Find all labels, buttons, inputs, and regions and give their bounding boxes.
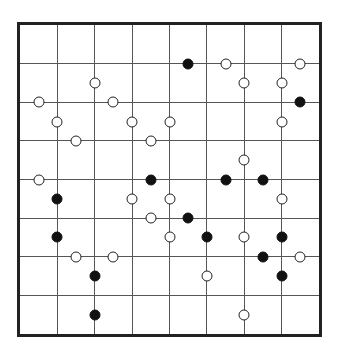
white-pearl-icon[interactable] xyxy=(164,193,175,204)
grid-line-horizontal xyxy=(20,140,319,141)
white-pearl-icon[interactable] xyxy=(127,193,138,204)
white-pearl-icon[interactable] xyxy=(164,116,175,127)
white-pearl-icon[interactable] xyxy=(71,135,82,146)
white-pearl-icon[interactable] xyxy=(201,271,212,282)
white-pearl-icon[interactable] xyxy=(276,193,287,204)
black-pearl-icon[interactable] xyxy=(276,271,287,282)
white-pearl-icon[interactable] xyxy=(276,77,287,88)
black-pearl-icon[interactable] xyxy=(276,232,287,243)
white-pearl-icon[interactable] xyxy=(33,97,44,108)
black-pearl-icon[interactable] xyxy=(89,309,100,320)
black-pearl-icon[interactable] xyxy=(257,174,268,185)
black-pearl-icon[interactable] xyxy=(295,97,306,108)
white-pearl-icon[interactable] xyxy=(295,251,306,262)
white-pearl-icon[interactable] xyxy=(220,58,231,69)
white-pearl-icon[interactable] xyxy=(108,97,119,108)
white-pearl-icon[interactable] xyxy=(108,251,119,262)
grid-line-horizontal xyxy=(20,102,319,103)
black-pearl-icon[interactable] xyxy=(257,251,268,262)
white-pearl-icon[interactable] xyxy=(145,135,156,146)
grid-line-horizontal xyxy=(20,218,319,219)
grid-line-horizontal xyxy=(20,63,319,64)
white-pearl-icon[interactable] xyxy=(239,155,250,166)
black-pearl-icon[interactable] xyxy=(183,213,194,224)
black-pearl-icon[interactable] xyxy=(145,174,156,185)
white-pearl-icon[interactable] xyxy=(295,58,306,69)
grid-line-horizontal xyxy=(20,179,319,180)
white-pearl-icon[interactable] xyxy=(71,251,82,262)
black-pearl-icon[interactable] xyxy=(89,271,100,282)
white-pearl-icon[interactable] xyxy=(239,232,250,243)
black-pearl-icon[interactable] xyxy=(183,58,194,69)
white-pearl-icon[interactable] xyxy=(276,116,287,127)
white-pearl-icon[interactable] xyxy=(145,213,156,224)
puzzle-board[interactable] xyxy=(17,22,322,337)
white-pearl-icon[interactable] xyxy=(52,116,63,127)
grid-line-horizontal xyxy=(20,256,319,257)
white-pearl-icon[interactable] xyxy=(239,309,250,320)
black-pearl-icon[interactable] xyxy=(52,232,63,243)
white-pearl-icon[interactable] xyxy=(33,174,44,185)
black-pearl-icon[interactable] xyxy=(201,232,212,243)
white-pearl-icon[interactable] xyxy=(127,116,138,127)
black-pearl-icon[interactable] xyxy=(52,193,63,204)
black-pearl-icon[interactable] xyxy=(220,174,231,185)
white-pearl-icon[interactable] xyxy=(164,232,175,243)
white-pearl-icon[interactable] xyxy=(89,77,100,88)
white-pearl-icon[interactable] xyxy=(239,77,250,88)
grid-line-horizontal xyxy=(20,295,319,296)
